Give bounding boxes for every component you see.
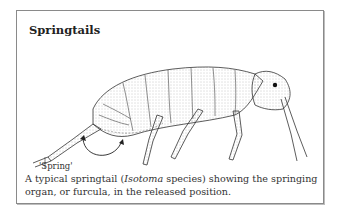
- springtail-illustration: [23, 39, 313, 169]
- caption-italic-genus: Isotoma: [124, 173, 163, 184]
- spring-label: 'Spring': [39, 161, 73, 171]
- caption-text-before: A typical springtail (: [25, 173, 124, 184]
- figure-caption: A typical springtail (Isotoma species) s…: [25, 172, 321, 198]
- figure-box: Springtails: [16, 10, 324, 204]
- box-title: Springtails: [29, 23, 100, 37]
